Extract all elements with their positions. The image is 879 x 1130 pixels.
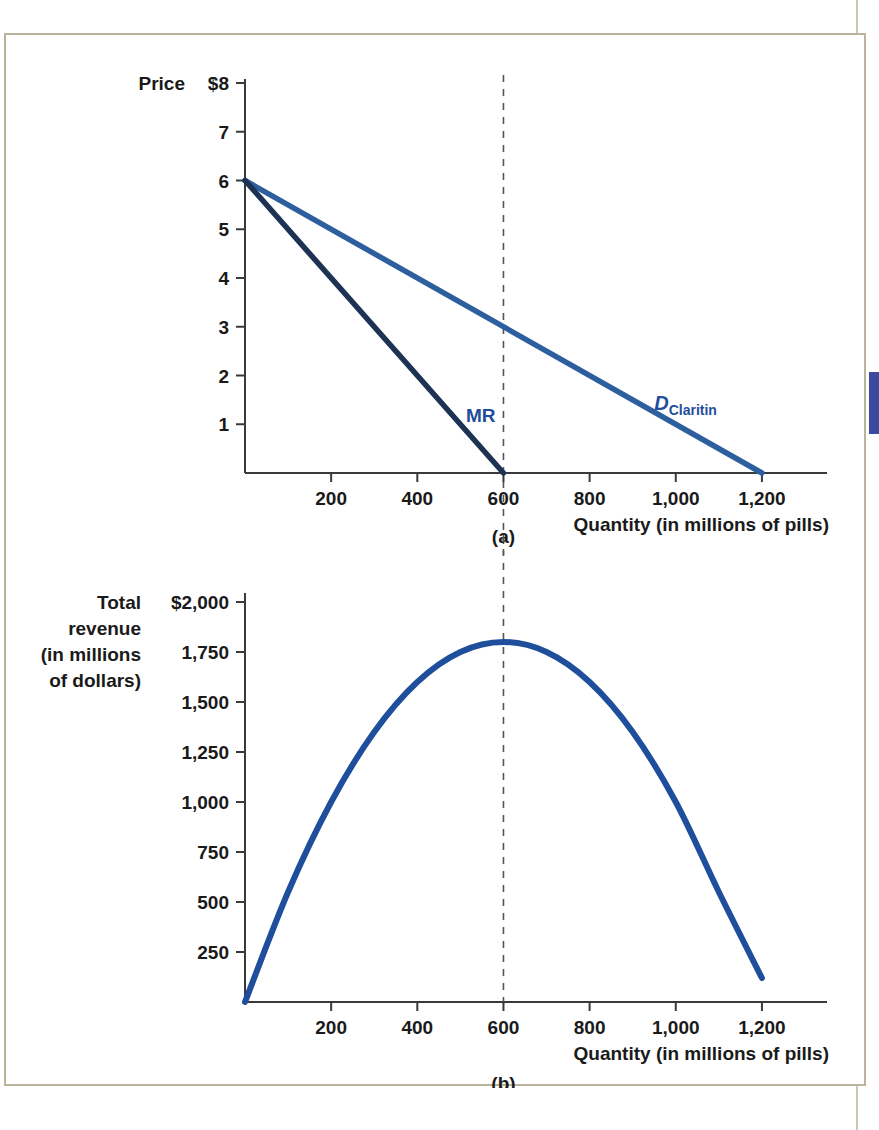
curve-label-demand-subscript: Claritin — [669, 402, 717, 418]
y-tick-label-b: 1,250 — [181, 742, 229, 763]
y-tick-label-a: 7 — [218, 122, 229, 143]
y-tick-label-a: 3 — [218, 317, 229, 338]
x-axis-title-b: Quantity (in millions of pills) — [574, 1043, 829, 1064]
y-axis-title-line-b: (in millions — [41, 644, 141, 665]
curve-mr — [245, 181, 503, 474]
curve-label-demand: DClaritin — [654, 392, 717, 418]
y-axis-title-line-b: of dollars) — [49, 670, 141, 691]
y-tick-label-a: 2 — [218, 366, 229, 387]
x-tick-label-b: 200 — [315, 1017, 347, 1038]
x-tick-label-a: 800 — [574, 488, 606, 509]
y-tick-label-a: 4 — [218, 268, 229, 289]
figure-frame: 1234567$82004006008001,0001,200PriceQuan… — [4, 33, 866, 1086]
y-tick-label-b: 250 — [197, 942, 229, 963]
y-tick-label-b: $2,000 — [171, 592, 229, 613]
y-tick-label-a: $8 — [208, 73, 229, 94]
x-tick-label-b: 1,200 — [738, 1017, 786, 1038]
curve-label-mr: MR — [466, 405, 496, 426]
y-axis-title-line-b: revenue — [68, 618, 141, 639]
x-tick-label-b: 600 — [488, 1017, 520, 1038]
x-tick-label-b: 800 — [574, 1017, 606, 1038]
x-tick-label-a: 400 — [401, 488, 433, 509]
page-side-tab — [869, 372, 879, 434]
x-tick-label-a: 1,000 — [652, 488, 700, 509]
chart-panel-a: 1234567$82004006008001,0001,200PriceQuan… — [6, 35, 864, 555]
y-axis-title-a: Price — [139, 73, 185, 94]
x-axis-title-a: Quantity (in millions of pills) — [574, 514, 829, 535]
x-tick-label-a: 600 — [488, 488, 520, 509]
y-tick-label-a: 5 — [218, 219, 229, 240]
x-tick-label-b: 400 — [401, 1017, 433, 1038]
y-tick-label-a: 1 — [218, 414, 229, 435]
y-tick-label-b: 1,000 — [181, 792, 229, 813]
y-tick-label-a: 6 — [218, 171, 229, 192]
y-tick-label-b: 750 — [197, 842, 229, 863]
y-tick-label-b: 1,500 — [181, 692, 229, 713]
x-tick-label-b: 1,000 — [652, 1017, 700, 1038]
figure-page: 1234567$82004006008001,0001,200PriceQuan… — [0, 0, 879, 1130]
x-tick-label-a: 1,200 — [738, 488, 786, 509]
chart-panel-b: 2505007501,0001,2501,5001,750$2,00020040… — [6, 535, 864, 1088]
y-tick-label-b: 1,750 — [181, 642, 229, 663]
y-axis-title-line-b: Total — [97, 592, 141, 613]
x-tick-label-a: 200 — [315, 488, 347, 509]
panel-label-b: (b) — [491, 1073, 515, 1088]
y-tick-label-b: 500 — [197, 892, 229, 913]
